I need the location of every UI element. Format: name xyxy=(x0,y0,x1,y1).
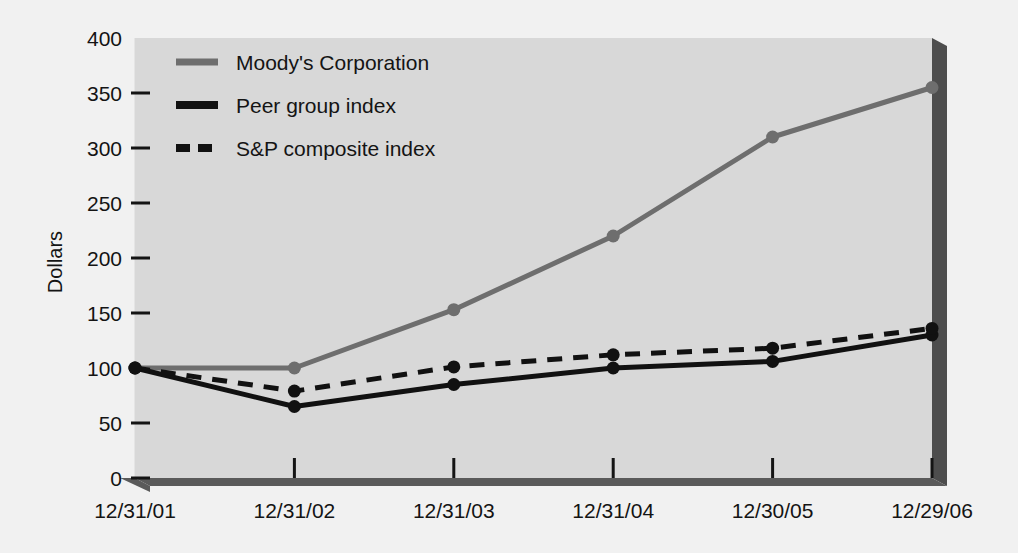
data-point xyxy=(766,355,779,368)
y-tick-label: 400 xyxy=(87,27,122,50)
plot-right-wall xyxy=(932,38,947,486)
y-tick-label: 0 xyxy=(110,467,122,490)
performance-line-chart: 400350300250200150100500 12/31/0112/31/0… xyxy=(0,0,1018,553)
data-point xyxy=(447,360,460,373)
data-point xyxy=(447,303,460,316)
data-point xyxy=(607,230,620,243)
data-point xyxy=(926,322,939,335)
y-tick-label: 50 xyxy=(99,412,122,435)
y-tick-label: 250 xyxy=(87,192,122,215)
legend-label-1: Peer group index xyxy=(236,94,396,117)
x-tick-label: 12/30/05 xyxy=(732,499,814,522)
data-point xyxy=(288,362,301,375)
data-point xyxy=(447,378,460,391)
data-point xyxy=(766,131,779,144)
data-point xyxy=(607,348,620,361)
chart-canvas: 400350300250200150100500 12/31/0112/31/0… xyxy=(0,0,1018,553)
legend-label-0: Moody's Corporation xyxy=(236,51,429,74)
x-tick-label: 12/31/01 xyxy=(94,499,176,522)
data-point xyxy=(129,362,142,375)
x-tick-label: 12/31/03 xyxy=(413,499,495,522)
y-tick-label: 150 xyxy=(87,302,122,325)
x-tick-label: 12/31/02 xyxy=(254,499,336,522)
y-axis-title: Dollars xyxy=(44,231,66,293)
plot-bottom-base xyxy=(135,478,947,486)
y-tick-label: 100 xyxy=(87,357,122,380)
y-tick-label: 350 xyxy=(87,82,122,105)
data-point xyxy=(607,362,620,375)
legend-label-2: S&P composite index xyxy=(236,137,436,160)
data-point xyxy=(926,81,939,94)
x-tick-label: 12/31/04 xyxy=(572,499,654,522)
data-point xyxy=(766,342,779,355)
y-tick-label: 300 xyxy=(87,137,122,160)
x-tick-label: 12/29/06 xyxy=(891,499,973,522)
y-tick-label: 200 xyxy=(87,247,122,270)
data-point xyxy=(288,385,301,398)
data-point xyxy=(288,400,301,413)
